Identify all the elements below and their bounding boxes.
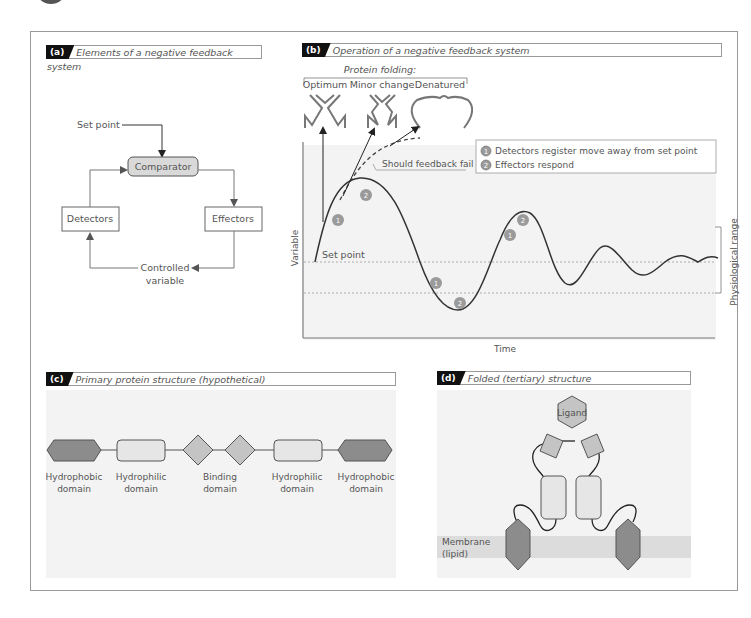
legend-item-2: Effectors respond bbox=[495, 160, 574, 170]
folding-optimum-label: Optimum bbox=[303, 79, 347, 90]
feedback-loop-diagram: Set point Comparator Effectors Controlle… bbox=[62, 119, 262, 286]
set-point-line-label: Set point bbox=[322, 249, 365, 260]
comparator-label: Comparator bbox=[135, 161, 192, 172]
hydrophilic-block-right bbox=[576, 476, 601, 519]
tertiary-structure-diagram: Membrane (lipid) Ligand bbox=[437, 396, 691, 570]
domain-label-2b: domain bbox=[124, 484, 158, 494]
folding-minor-change-label: Minor change bbox=[350, 79, 415, 90]
variable-curve bbox=[315, 178, 718, 310]
svg-text:1: 1 bbox=[508, 232, 512, 240]
hydrophobic-anchor-right bbox=[616, 519, 640, 570]
ligand-label: Ligand bbox=[557, 408, 587, 418]
controlled-variable-label-1: Controlled bbox=[141, 262, 190, 273]
binding-domain-left bbox=[183, 435, 213, 465]
svg-text:2: 2 bbox=[458, 300, 462, 308]
primary-structure-diagram: Hydrophobic domain Hydrophilic domain Bi… bbox=[46, 435, 395, 494]
hydrophilic-domain-left bbox=[117, 440, 165, 461]
domain-label-5b: domain bbox=[349, 484, 383, 494]
domain-label-2a: Hydrophilic bbox=[116, 472, 167, 482]
domain-label-5a: Hydrophobic bbox=[338, 472, 395, 482]
detectors-label: Detectors bbox=[67, 213, 113, 224]
hydrophobic-domain-left bbox=[47, 440, 101, 461]
domain-label-3b: domain bbox=[203, 484, 237, 494]
domain-label-4a: Hydrophilic bbox=[272, 472, 323, 482]
svg-text:2: 2 bbox=[484, 162, 488, 170]
should-feedback-fail-label: Should feedback fail bbox=[382, 159, 474, 169]
membrane-label-2: (lipid) bbox=[442, 549, 468, 559]
set-point-label: Set point bbox=[77, 119, 120, 130]
svg-text:2: 2 bbox=[364, 192, 368, 200]
domain-label-1a: Hydrophobic bbox=[46, 472, 103, 482]
hydrophilic-block-left bbox=[541, 476, 566, 519]
physiological-range-label: Physiological range bbox=[729, 218, 739, 306]
hydrophobic-anchor-left bbox=[506, 519, 530, 570]
hydrophilic-domain-right bbox=[274, 440, 322, 461]
denatured-protein-shape bbox=[412, 96, 473, 128]
x-axis-label: Time bbox=[493, 344, 516, 354]
feedback-operation-chart: Protein folding: Optimum Minor change De… bbox=[290, 64, 739, 354]
svg-text:1: 1 bbox=[434, 280, 438, 288]
membrane-label-1: Membrane bbox=[442, 537, 491, 547]
effectors-label: Effectors bbox=[212, 213, 254, 224]
y-axis-label: Variable bbox=[290, 229, 300, 266]
controlled-variable-label-2: variable bbox=[146, 275, 184, 286]
legend-item-1: Detectors register move away from set po… bbox=[495, 146, 698, 156]
hydrophobic-domain-right bbox=[338, 440, 392, 461]
domain-label-3a: Binding bbox=[203, 472, 237, 482]
binding-domain-right bbox=[225, 435, 255, 465]
svg-text:1: 1 bbox=[484, 148, 488, 156]
minor-change-protein-shape bbox=[368, 95, 396, 128]
optimum-protein-shape bbox=[305, 95, 345, 128]
protein-folding-header: Protein folding: bbox=[344, 64, 416, 75]
diagram-canvas: Set point Comparator Effectors Controlle… bbox=[0, 0, 751, 618]
feedback-fail-curve bbox=[340, 138, 420, 200]
domain-label-1b: domain bbox=[57, 484, 91, 494]
svg-text:1: 1 bbox=[336, 217, 340, 225]
folding-denatured-label: Denatured bbox=[415, 79, 465, 90]
domain-label-4b: domain bbox=[280, 484, 314, 494]
svg-text:2: 2 bbox=[521, 217, 525, 225]
binding-square-left bbox=[540, 434, 563, 458]
binding-square-right bbox=[581, 434, 604, 458]
